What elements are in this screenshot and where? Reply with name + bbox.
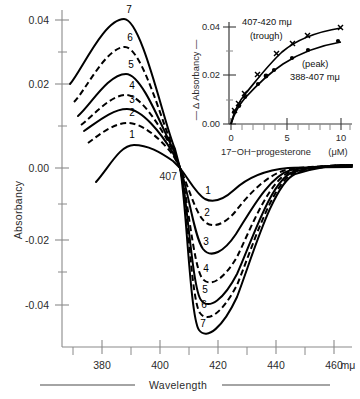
inset-trough-markers xyxy=(232,25,343,113)
main-y-axis-title: Absorbancy xyxy=(12,180,24,239)
main-curve-3 xyxy=(84,109,352,254)
inset-ytick-0: 0.04 xyxy=(202,22,220,32)
main-x-axis-title: Wavelength xyxy=(149,379,207,391)
main-xtick-0: 380 xyxy=(93,359,111,371)
main-xtick-3: 440 xyxy=(267,359,285,371)
inset-annotation-peak-word: (peak) xyxy=(302,59,328,69)
main-trough-label-1: 1 xyxy=(205,185,211,196)
inset-xtick-1: 5 xyxy=(284,133,289,143)
main-peak-label-5: 5 xyxy=(128,59,134,70)
main-peak-label-4: 4 xyxy=(129,80,135,91)
main-ytick-1: 0.02 xyxy=(29,78,50,90)
main-peak-label-3: 3 xyxy=(129,94,135,105)
main-xtick-2: 420 xyxy=(209,359,227,371)
main-curve-2 xyxy=(88,123,352,225)
main-peak-label-6: 6 xyxy=(127,32,133,43)
inset-y-axis-title: — Δ Absorbancy — xyxy=(191,39,201,120)
main-xtick-1: 400 xyxy=(151,359,169,371)
main-x-unit: mμ xyxy=(341,359,356,371)
main-ytick-0: 0.04 xyxy=(29,14,50,26)
inset-xtick-2: 10 xyxy=(336,133,346,143)
figure-canvas: 0.04 0.02 0.00 -0.02 -0.04 380 400 420 4… xyxy=(0,0,360,399)
figure-difference-spectrum: 0.04 0.02 0.00 -0.02 -0.04 380 400 420 4… xyxy=(0,0,360,399)
inset-curve-peak xyxy=(231,42,341,124)
main-peak-label-7: 7 xyxy=(126,4,132,15)
inset-x-axis-title: 17−OH−progesterone xyxy=(221,147,311,157)
main-trough-label-4: 4 xyxy=(203,263,209,274)
inset-xtick-0: 0 xyxy=(228,133,233,143)
main-trough-label-2: 2 xyxy=(204,207,210,218)
main-trough-label-6: 6 xyxy=(201,299,207,310)
main-peak-label-2: 2 xyxy=(129,107,135,118)
main-ytick-2: 0.00 xyxy=(29,162,50,174)
main-peak-label-1: 1 xyxy=(129,129,135,140)
main-curve-6 xyxy=(74,47,352,317)
inset-panel: 0.04 0.02 0.00 0 5 10 xyxy=(191,17,352,157)
inset-ytick-1: 0.02 xyxy=(202,70,220,80)
main-curve-5 xyxy=(78,74,352,304)
main-ytick-3: -0.02 xyxy=(25,234,49,246)
main-ytick-4: -0.04 xyxy=(25,299,49,311)
inset-annotation-trough-word: (trough) xyxy=(250,31,283,41)
inset-annotation-peak-range: 388-407 mμ xyxy=(290,72,340,82)
main-trough-label-3: 3 xyxy=(203,236,209,247)
inset-x-axis-unit: (μM) xyxy=(328,147,347,157)
inset-ytick-2: 0.00 xyxy=(202,119,220,129)
inset-annotation-trough-range: 407-420 mμ xyxy=(242,17,292,27)
main-trough-label-5: 5 xyxy=(202,284,208,295)
inset-outlier-point xyxy=(264,74,269,79)
main-crossover-label: 407 xyxy=(159,170,177,182)
main-trough-label-7: 7 xyxy=(200,318,206,329)
main-curve-labels-trough: 1 2 3 4 5 6 7 xyxy=(200,185,211,329)
